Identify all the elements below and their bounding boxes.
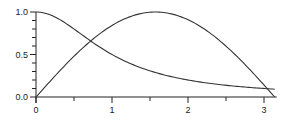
series-line-2: [36, 12, 275, 89]
y-tick-label: 0.5: [15, 50, 28, 60]
line-chart: 01230.00.51.0: [0, 0, 283, 121]
axes: 01230.00.51.0: [15, 7, 276, 115]
x-tick-label: 3: [261, 105, 266, 115]
y-tick-label: 0.0: [15, 92, 28, 102]
series-group: [36, 12, 275, 97]
x-tick-label: 0: [33, 105, 38, 115]
x-tick-label: 1: [109, 105, 114, 115]
y-tick-label: 1.0: [15, 7, 28, 17]
series-line-1: [36, 12, 275, 97]
x-tick-label: 2: [185, 105, 190, 115]
